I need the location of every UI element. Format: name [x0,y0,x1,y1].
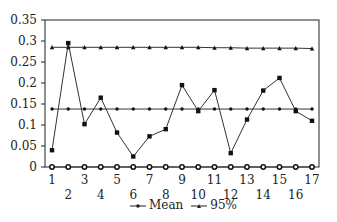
y-tick-label: 0.1 [18,118,37,132]
y-tick-label: 0.05 [10,139,37,153]
series-data-line [52,43,312,156]
legend: Mean 95% [130,198,237,212]
x-tick-label: 5 [113,173,121,187]
x-tick-label: 7 [146,173,154,187]
x-tick-label: 2 [64,188,72,202]
y-tick-label: 0.25 [10,55,37,69]
x-tick-label: 13 [239,173,254,187]
mean-marker-icon [130,201,146,209]
legend-mean-label: Mean [149,198,183,212]
y-tick-label: 0.15 [10,97,37,111]
legend-95-label: 95% [210,198,237,212]
x-tick-label: 4 [97,188,105,202]
legend-95: 95% [191,198,237,212]
y-tick-label: 0.2 [18,76,37,90]
x-tick-label: 1 [48,173,56,187]
y-tick-label: 0.35 [10,13,37,27]
x-tick-label: 9 [178,173,186,187]
x-tick-label: 14 [256,188,272,202]
y-tick-label: 0 [29,160,37,174]
p95-marker-icon [191,201,207,209]
x-tick-label: 15 [272,173,287,187]
y-tick-label: 0.3 [18,34,37,48]
x-tick-label: 17 [304,173,319,187]
legend-mean: Mean [130,198,183,212]
x-tick-label: 16 [288,188,303,202]
x-tick-label: 3 [81,173,89,187]
line-chart: 00.050.10.150.20.250.30.3512345678910111… [0,0,337,222]
plot-frame [45,20,319,167]
x-tick-label: 11 [207,173,222,187]
